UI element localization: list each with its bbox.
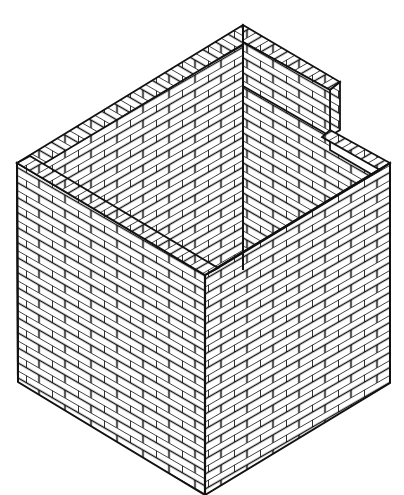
brick-structure-drawing	[0, 0, 404, 495]
back-right-pier	[330, 82, 340, 136]
